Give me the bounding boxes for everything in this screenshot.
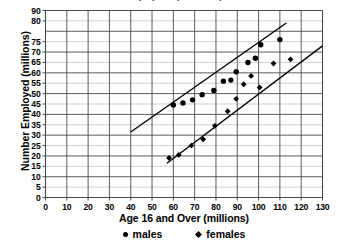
x-tick-label: 100 [248, 202, 270, 212]
data-point-females [233, 96, 239, 102]
data-point-females [248, 73, 254, 79]
data-point-males [199, 92, 204, 97]
x-tick-label: 50 [141, 202, 163, 212]
data-point-females [241, 81, 247, 87]
data-point-females [271, 61, 277, 67]
diamond-marker-icon [195, 230, 202, 237]
y-tick-label: 30 [19, 130, 41, 140]
x-axis-title: Age 16 and Over (millions) [45, 212, 323, 224]
x-tick-label: 10 [56, 202, 78, 212]
data-point-males [190, 97, 195, 102]
x-tick-label: 40 [120, 202, 142, 212]
x-tick-label: 60 [162, 202, 184, 212]
data-point-males [228, 77, 233, 82]
x-tick-label: 80 [205, 202, 227, 212]
y-tick-label: 5 [19, 182, 41, 192]
data-point-males [234, 69, 239, 74]
data-point-males [258, 42, 263, 47]
y-tick-label: 70 [19, 47, 41, 57]
y-tick-label: 20 [19, 151, 41, 161]
data-point-markers [166, 37, 293, 161]
y-tick-label: 55 [19, 78, 41, 88]
data-point-females [225, 108, 231, 114]
y-tick-label: 15 [19, 161, 41, 171]
data-point-females [288, 56, 294, 62]
x-tick-label: 30 [98, 202, 120, 212]
x-tick-label: 130 [312, 202, 334, 212]
data-point-males [277, 37, 282, 42]
x-tick-label: 20 [77, 202, 99, 212]
trend-line-males [131, 23, 287, 132]
legend-label: males [133, 228, 163, 240]
x-tick-label: 110 [269, 202, 291, 212]
y-tick-label: 35 [19, 120, 41, 130]
y-tick-label: 40 [19, 109, 41, 119]
legend-label: females [206, 228, 245, 240]
y-tick-label: 50 [19, 89, 41, 99]
data-point-females [257, 84, 263, 90]
legend-entry-males: males [123, 228, 163, 240]
trend-lines [131, 23, 323, 163]
y-tick-label: 10 [19, 172, 41, 182]
legend-entry-females: females [196, 228, 245, 240]
y-tick-label: 60 [19, 68, 41, 78]
x-tick-label: 70 [184, 202, 206, 212]
data-point-males [211, 88, 216, 93]
y-tick-label: 65 [19, 57, 41, 67]
data-point-males [180, 100, 185, 105]
x-tick-label: 90 [226, 202, 248, 212]
x-tick-label: 0 [35, 202, 57, 212]
y-tick-label: 75 [19, 37, 41, 47]
data-point-males [253, 56, 258, 61]
data-point-males [221, 78, 226, 83]
x-tick-label: 120 [290, 202, 312, 212]
y-tick-label: 90 [19, 6, 41, 16]
circle-marker-icon [123, 232, 128, 237]
chart-legend: malesfemales [45, 228, 323, 240]
data-point-males [245, 60, 250, 65]
y-tick-label: 45 [19, 99, 41, 109]
y-tick-label: 80 [19, 16, 41, 26]
data-point-males [171, 102, 176, 107]
scatter-chart-figure: Employment (in millions) Number Employed… [0, 0, 348, 248]
y-tick-label: 25 [19, 141, 41, 151]
